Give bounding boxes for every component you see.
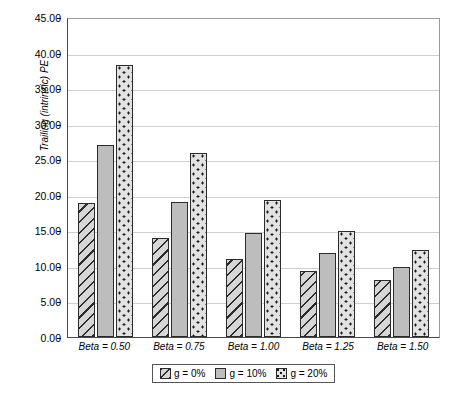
legend-swatch-icon	[276, 368, 287, 379]
bar-group	[68, 19, 142, 337]
bar[interactable]	[338, 231, 355, 337]
y-tick-label: 15.00	[15, 226, 61, 237]
bar[interactable]	[97, 145, 114, 337]
bar[interactable]	[393, 267, 410, 337]
y-tick-label: 30.00	[15, 119, 61, 130]
bar-groups	[68, 19, 439, 337]
legend-item[interactable]: g = 20%	[276, 368, 327, 379]
x-tick-label: Beta = 0.50	[67, 341, 142, 352]
y-tick-mark	[57, 125, 61, 126]
bar-group	[291, 19, 365, 337]
bar[interactable]	[78, 203, 95, 337]
x-tick-label: Beta = 0.75	[142, 341, 217, 352]
y-tick-label: 40.00	[15, 48, 61, 59]
bar-group	[365, 19, 439, 337]
legend-item[interactable]: g = 0%	[160, 368, 205, 379]
y-tick-mark	[57, 267, 61, 268]
y-tick-label: 45.00	[15, 13, 61, 24]
legend-item[interactable]: g = 10%	[215, 368, 266, 379]
y-tick-label: 20.00	[15, 191, 61, 202]
y-tick-mark	[57, 160, 61, 161]
bar-chart: Trailing (intrinsic) PE 45.0040.0035.003…	[0, 0, 461, 394]
y-tick-mark	[57, 338, 61, 339]
y-tick-mark	[57, 196, 61, 197]
legend-label: g = 0%	[174, 368, 205, 379]
legend-label: g = 10%	[229, 368, 266, 379]
bar[interactable]	[300, 271, 317, 337]
y-tick-mark	[57, 18, 61, 19]
y-tick-label: 0.00	[15, 333, 61, 344]
bar-group	[142, 19, 216, 337]
bar[interactable]	[412, 250, 429, 337]
bar[interactable]	[226, 259, 243, 337]
plot-area	[67, 18, 440, 338]
bar[interactable]	[171, 202, 188, 337]
x-axis-tick-labels: Beta = 0.50Beta = 0.75Beta = 1.00Beta = …	[67, 341, 440, 352]
bar[interactable]	[319, 253, 336, 337]
y-tick-label: 35.00	[15, 84, 61, 95]
y-tick-mark	[57, 54, 61, 55]
bar[interactable]	[190, 153, 207, 337]
y-tick-mark	[57, 302, 61, 303]
legend-swatch-icon	[160, 368, 171, 379]
y-tick-label: 25.00	[15, 155, 61, 166]
y-tick-label: 10.00	[15, 262, 61, 273]
bar-group	[216, 19, 290, 337]
bar[interactable]	[152, 238, 169, 337]
y-tick-mark	[57, 89, 61, 90]
y-axis-ticks: 45.0040.0035.0030.0025.0020.0015.0010.00…	[13, 0, 61, 394]
bar[interactable]	[245, 233, 262, 337]
bar[interactable]	[374, 280, 391, 337]
y-tick-mark	[57, 231, 61, 232]
legend-label: g = 20%	[290, 368, 327, 379]
legend: g = 0%g = 10%g = 20%	[152, 364, 335, 383]
x-tick-label: Beta = 1.25	[291, 341, 366, 352]
x-tick-label: Beta = 1.00	[216, 341, 291, 352]
y-tick-label: 5.00	[15, 297, 61, 308]
x-tick-label: Beta = 1.50	[365, 341, 440, 352]
bar[interactable]	[116, 65, 133, 337]
bar[interactable]	[264, 200, 281, 337]
legend-swatch-icon	[215, 368, 226, 379]
